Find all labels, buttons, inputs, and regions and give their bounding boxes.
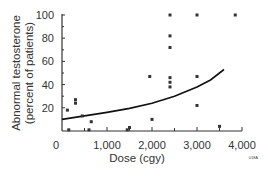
data-point xyxy=(169,46,172,49)
data-point xyxy=(169,14,172,17)
y-axis-title-line1: Abnormal testosterone xyxy=(10,15,22,131)
fitted-curve xyxy=(62,70,224,120)
scatter-chart: Abnormal testosterone (percent of patien… xyxy=(0,0,268,176)
data-point xyxy=(74,98,77,101)
data-point xyxy=(169,34,172,37)
y-axis-title: Abnormal testosterone (percent of patien… xyxy=(10,15,35,131)
x-tick-label: 3,000 xyxy=(183,139,211,151)
data-points xyxy=(66,14,237,132)
data-point xyxy=(196,104,199,107)
data-point xyxy=(148,75,151,78)
x-tick-label: 2,000 xyxy=(138,139,166,151)
y-ticks: 204060801000 xyxy=(36,9,65,151)
data-point xyxy=(169,81,172,84)
figure-code: 018A xyxy=(249,155,259,160)
data-point xyxy=(234,14,237,17)
data-point xyxy=(218,125,221,128)
data-point xyxy=(90,120,93,123)
data-point xyxy=(169,76,172,79)
origin-label: 0 xyxy=(53,139,59,151)
y-tick-label: 100 xyxy=(36,9,54,21)
x-tick-label: 4,000 xyxy=(228,139,256,151)
data-point xyxy=(67,128,70,131)
data-point xyxy=(151,118,154,121)
data-point xyxy=(88,128,91,131)
y-tick-label: 60 xyxy=(42,55,54,67)
x-axis-title: Dose (cgy) xyxy=(109,152,165,164)
data-point xyxy=(81,114,84,117)
data-point xyxy=(196,75,199,78)
data-point xyxy=(196,14,199,17)
y-axis-title-line2: (percent of patients) xyxy=(23,22,35,124)
data-point xyxy=(74,102,77,105)
y-tick-label: 40 xyxy=(42,79,54,91)
data-point xyxy=(66,109,69,112)
x-tick-label: 1,000 xyxy=(93,139,121,151)
y-tick-label: 80 xyxy=(42,32,54,44)
data-point xyxy=(169,85,172,88)
y-tick-label: 20 xyxy=(42,102,54,114)
data-point xyxy=(128,126,131,129)
axes xyxy=(62,14,242,131)
